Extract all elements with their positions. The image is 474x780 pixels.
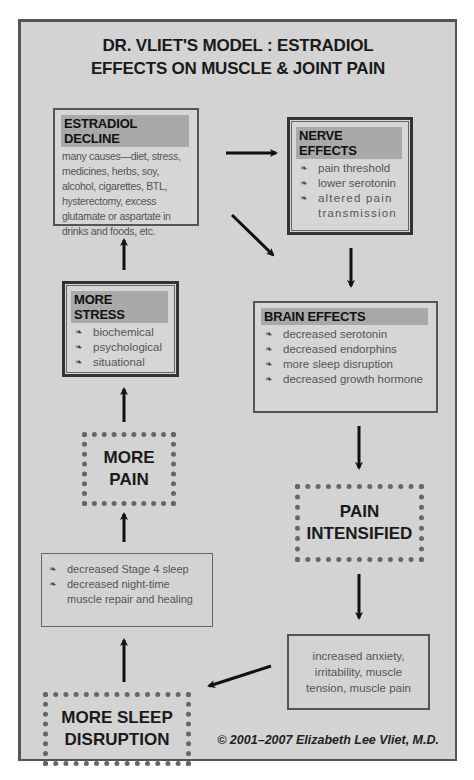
nerve-effects-box: NERVE EFFECTS ❧pain threshold ❧lower ser…: [287, 117, 413, 235]
list-item: ❧decreased serotonin: [265, 327, 430, 342]
title-line-1: DR. VLIET'S MODEL : ESTRADIOL: [21, 34, 455, 57]
nerve-effects-heading: NERVE EFFECTS: [296, 127, 402, 159]
leaf-bullet-icon: ❧: [265, 357, 283, 372]
estradiol-decline-heading: ESTRADIOL DECLINE: [61, 115, 189, 147]
leaf-bullet-icon: ❧: [75, 340, 93, 355]
leaf-bullet-icon: ❧: [265, 327, 283, 342]
leaf-bullet-icon: ❧: [300, 176, 318, 191]
brain-effects-heading: BRAIN EFFECTS: [261, 308, 428, 325]
leaf-bullet-icon: ❧: [75, 325, 93, 340]
estradiol-decline-text: many causes—diet, stress, medicines, her…: [55, 149, 197, 239]
list-item: ❧altered pain transmission: [300, 191, 404, 221]
pain-intensified-box: PAIN INTENSIFIED: [295, 484, 424, 562]
leaf-bullet-icon: ❧: [300, 161, 318, 176]
list-item: ❧biochemical: [75, 325, 170, 340]
leaf-bullet-icon: ❧: [265, 372, 283, 387]
title-line-2: EFFECTS ON MUSCLE & JOINT PAIN: [21, 57, 455, 80]
more-stress-heading: MORE STRESS: [71, 291, 168, 323]
pain-intensified-line-2: INTENSIFIED: [307, 523, 413, 545]
leaf-bullet-icon: ❧: [265, 342, 283, 357]
list-item: ❧decreased night-time muscle repair and …: [49, 577, 206, 607]
diagram-title: DR. VLIET'S MODEL : ESTRADIOL EFFECTS ON…: [21, 34, 455, 80]
leaf-bullet-icon: ❧: [49, 562, 67, 577]
list-item: ❧pain threshold: [300, 161, 404, 176]
list-item: ❧more sleep disruption: [265, 357, 430, 372]
more-pain-box: MORE PAIN: [82, 432, 176, 506]
leaf-bullet-icon: ❧: [49, 577, 67, 592]
list-item: ❧lower serotonin: [300, 176, 404, 191]
estradiol-decline-box: ESTRADIOL DECLINE many causes—diet, stre…: [53, 108, 199, 226]
more-sleep-disruption-line-1: MORE SLEEP: [61, 707, 172, 729]
sleep-effects-box: ❧decreased Stage 4 sleep ❧decreased nigh…: [41, 553, 213, 627]
more-stress-box: MORE STRESS ❧biochemical ❧psychological …: [62, 281, 179, 377]
anxiety-text: increased anxiety, irritability, muscle …: [289, 648, 428, 696]
list-item: ❧decreased growth hormone: [265, 372, 430, 387]
list-item: ❧psychological: [75, 340, 170, 355]
list-item: ❧situational: [75, 355, 170, 370]
list-item: ❧decreased Stage 4 sleep: [49, 562, 206, 577]
more-sleep-disruption-box: MORE SLEEP DISRUPTION: [43, 692, 191, 766]
anxiety-box: increased anxiety, irritability, muscle …: [287, 634, 430, 710]
copyright-notice: © 2001–2007 Elizabeth Lee Vliet, M.D.: [217, 733, 439, 747]
more-pain-line-1: MORE: [104, 447, 155, 469]
more-sleep-disruption-line-2: DISRUPTION: [61, 729, 172, 751]
more-pain-line-2: PAIN: [104, 469, 155, 491]
diagram-frame: DR. VLIET'S MODEL : ESTRADIOL EFFECTS ON…: [18, 19, 457, 761]
list-item: ❧decreased endorphins: [265, 342, 430, 357]
leaf-bullet-icon: ❧: [300, 191, 318, 206]
arrow-left-diagonal-icon: [209, 666, 271, 686]
pain-intensified-line-1: PAIN: [307, 501, 413, 523]
brain-effects-box: BRAIN EFFECTS ❧decreased serotonin ❧decr…: [253, 301, 438, 413]
leaf-bullet-icon: ❧: [75, 355, 93, 370]
arrow-diagonal-icon: [232, 215, 273, 255]
